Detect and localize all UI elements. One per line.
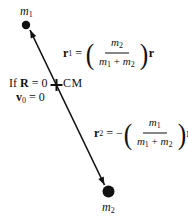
eq1-den-plus: + — [114, 55, 120, 67]
condition-if: If — [9, 76, 17, 90]
eq1-denominator: m1 + m2 — [97, 54, 137, 71]
eq1-num-m: m — [111, 36, 119, 48]
condition-text: If R = 0 v0 = 0 — [9, 76, 47, 108]
eq1-den-m2: m — [123, 55, 131, 67]
equation-r1: r1 = ( m2 m1 + m2 ) r — [63, 36, 154, 71]
mass1-label-base: m — [20, 4, 29, 18]
eq1-den-m2-sub: 2 — [131, 60, 135, 69]
eq2-lhs-sub: 2 — [99, 129, 103, 138]
diagram-canvas — [0, 0, 188, 222]
eq2-fraction: m1 m1 + m2 — [135, 116, 175, 151]
eq2-denominator: m1 + m2 — [135, 134, 175, 151]
eq2-den-m2: m — [161, 135, 169, 147]
eq2-minus-sign: − — [116, 126, 123, 141]
cm-label: CM — [63, 76, 83, 91]
eq2-close-paren: ) — [177, 118, 186, 148]
eq1-lhs-sub: 1 — [68, 49, 72, 58]
mass2-dot — [103, 186, 115, 198]
eq2-equals: = — [106, 126, 113, 141]
condition-R-vector: R — [20, 76, 29, 90]
eq2-den-m1-sub: 1 — [145, 140, 149, 149]
eq1-fraction: m2 m1 + m2 — [97, 36, 137, 71]
condition-line2: v0 = 0 — [9, 90, 47, 108]
mass2-label-sub: 2 — [111, 206, 115, 215]
eq1-open-paren: ( — [86, 38, 95, 68]
eq2-num-sub: 1 — [157, 121, 161, 130]
equation-r2: r2 = − ( m1 m1 + m2 ) r — [94, 116, 188, 151]
eq1-den-m1-sub: 1 — [107, 60, 111, 69]
mass2-label: m2 — [102, 200, 115, 215]
eq1-equals: = — [75, 46, 82, 61]
mass1-dot — [22, 21, 30, 29]
arrowhead-toward-mass2 — [98, 177, 104, 186]
eq2-num-m: m — [149, 116, 157, 128]
eq2-numerator: m1 — [143, 116, 167, 134]
two-body-cm-diagram: m1 m2 CM If R = 0 v0 = 0 r1 = ( m2 m1 + … — [0, 0, 188, 222]
mass1-label: m1 — [20, 4, 33, 19]
condition-line1-equals: = — [32, 76, 39, 90]
eq1-den-m1: m — [99, 55, 107, 67]
mass1-label-sub: 1 — [29, 10, 33, 19]
condition-v-sub: 0 — [22, 96, 26, 105]
eq2-den-m2-sub: 2 — [169, 140, 173, 149]
condition-line2-value: 0 — [39, 90, 45, 104]
cm-cross-marker — [51, 79, 63, 91]
eq1-num-sub: 2 — [119, 41, 123, 50]
eq2-rhs-r: r — [187, 126, 188, 141]
eq2-den-plus: + — [152, 135, 158, 147]
eq1-numerator: m2 — [105, 36, 129, 54]
eq2-open-paren: ( — [124, 118, 133, 148]
condition-line1-value: 0 — [41, 76, 47, 90]
eq1-rhs-r: r — [149, 46, 154, 61]
eq1-close-paren: ) — [139, 38, 148, 68]
mass2-label-base: m — [102, 200, 111, 214]
condition-line2-equals: = — [29, 90, 36, 104]
eq2-den-m1: m — [137, 135, 145, 147]
condition-line1: If R = 0 — [9, 76, 47, 90]
arrowhead-toward-mass1 — [30, 30, 36, 39]
